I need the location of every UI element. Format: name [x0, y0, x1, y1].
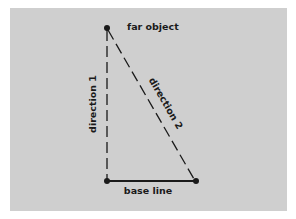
direction-2-line: [108, 30, 194, 179]
base-left-point: [104, 178, 110, 184]
direction-2-label: direction 2: [147, 75, 185, 131]
base-right-point: [193, 178, 199, 184]
base-line-label: base line: [124, 185, 172, 196]
triangulation-diagram: far object direction 1 direction 2 base …: [0, 0, 296, 219]
direction-1-label: direction 1: [87, 75, 98, 133]
far-object-point: [104, 25, 110, 31]
far-object-label: far object: [127, 21, 179, 32]
